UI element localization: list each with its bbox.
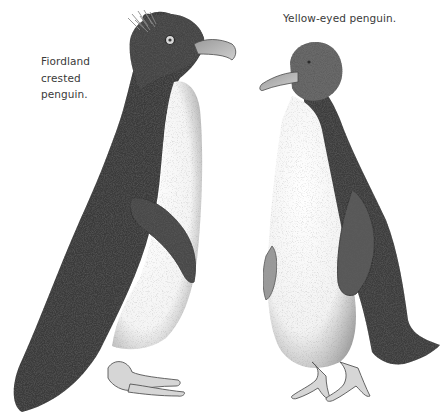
fiordland-caption: Fiordland crested penguin. (41, 53, 121, 103)
fiordland-caption-line-3: penguin. (41, 86, 121, 103)
fiordland-feet-icon (108, 362, 185, 397)
fiordland-beak-icon (194, 40, 236, 61)
yellow-eyed-head (290, 42, 342, 101)
fiordland-caption-line-2: crested (41, 70, 121, 87)
yellow-eyed-caption-line-1: Yellow-eyed penguin. (283, 10, 442, 27)
fiordland-caption-line-1: Fiordland (41, 53, 121, 70)
yellow-eyed-caption: Yellow-eyed penguin. (283, 10, 442, 27)
yellow-eyed-feet-icon (291, 362, 370, 401)
yellow-eyed-penguin (260, 42, 440, 401)
yellow-eyed-eye-icon (307, 60, 310, 63)
